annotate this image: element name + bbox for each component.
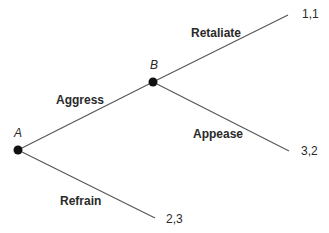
game-tree-diagram: A B Aggress Refrain Retaliate Appease 1,… [0,0,329,233]
payoff-retaliate: 1,1 [302,7,319,21]
node-a-label: A [13,126,22,140]
node-a [14,146,23,155]
label-appease: Appease [193,127,243,141]
node-b-label: B [150,58,158,72]
node-b [149,78,158,87]
label-aggress: Aggress [56,93,104,107]
label-retaliate: Retaliate [191,26,241,40]
label-refrain: Refrain [60,194,101,208]
payoff-appease: 3,2 [301,144,318,158]
payoff-refrain: 2,3 [166,212,183,226]
